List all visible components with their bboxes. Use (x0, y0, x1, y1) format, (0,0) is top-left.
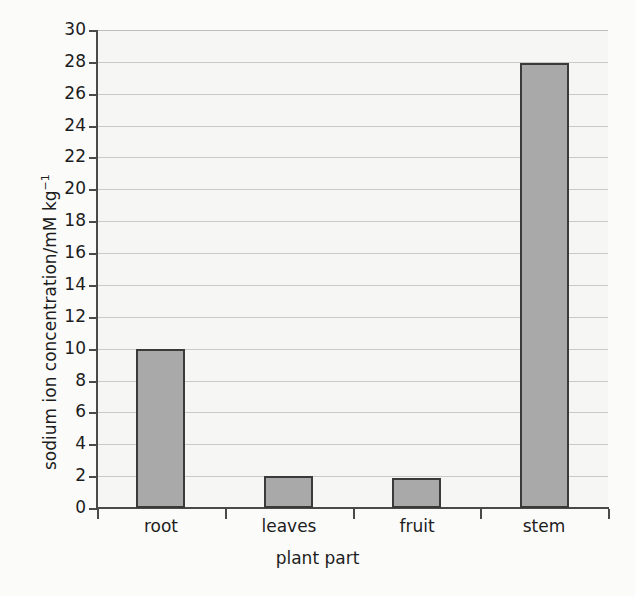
y-axis-tick-label: 0 (42, 499, 86, 516)
bar-leaves (264, 476, 313, 508)
y-axis-tick-label: 24 (42, 117, 86, 134)
y-axis-tick (89, 189, 97, 191)
gridline (97, 30, 608, 31)
bar-root (136, 349, 185, 508)
y-axis-title-exponent: −1 (39, 174, 52, 190)
y-axis-tick (89, 285, 97, 287)
x-axis-label-leaves: leaves (225, 518, 353, 535)
y-axis-tick-label: 30 (42, 21, 86, 38)
y-axis-tick-label: 28 (42, 53, 86, 70)
x-axis-label-stem: stem (480, 518, 608, 535)
x-axis-label-root: root (97, 518, 225, 535)
y-axis-tick (89, 444, 97, 446)
bar-chart-figure: 024681012141618202224262830 rootleavesfr… (0, 0, 635, 596)
y-axis-title: sodium ion concentration/mM kg−1 (40, 174, 60, 470)
y-axis-tick-label: 22 (42, 148, 86, 165)
y-axis-tick (89, 94, 97, 96)
bar-fruit (392, 478, 441, 508)
y-axis-tick (89, 508, 97, 510)
x-axis-tick (608, 509, 610, 519)
y-axis-tick (89, 412, 97, 414)
y-axis-tick (89, 126, 97, 128)
y-axis-tick-label: 26 (42, 85, 86, 102)
y-axis-tick (89, 317, 97, 319)
y-axis-title-text: sodium ion concentration/mM kg (40, 190, 60, 470)
x-axis-title: plant part (0, 548, 635, 568)
y-axis-tick (89, 62, 97, 64)
y-axis-tick (89, 253, 97, 255)
y-axis-line (96, 30, 98, 509)
y-axis-tick (89, 221, 97, 223)
y-axis-tick (89, 349, 97, 351)
y-axis-tick (89, 381, 97, 383)
y-axis-tick (89, 157, 97, 159)
x-axis-label-fruit: fruit (353, 518, 481, 535)
bar-stem (520, 63, 569, 508)
y-axis-tick (89, 476, 97, 478)
y-axis-tick (89, 30, 97, 32)
